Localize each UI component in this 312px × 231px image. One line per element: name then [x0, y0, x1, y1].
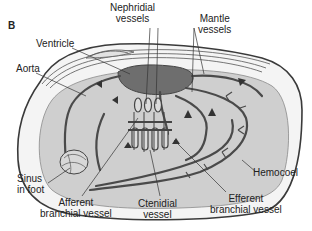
label-ctenidial-vessel: Ctenidial vessel	[138, 198, 177, 220]
label-nephridial-vessels: Nephridial vessels	[110, 2, 155, 24]
panel-label: B	[8, 20, 15, 31]
label-mantle-vessels: Mantle vessels	[198, 13, 231, 35]
label-aorta: Aorta	[16, 63, 40, 74]
sinus-in-foot	[60, 150, 88, 174]
label-efferent-branchial-vessel: Efferent branchial vessel	[210, 193, 282, 215]
label-sinus-in-foot: Sinus in foot	[17, 173, 44, 195]
label-afferent-branchial-vessel: Afferent branchial vessel	[40, 197, 112, 219]
label-ventricle: Ventricle	[36, 38, 74, 49]
label-hemocoel: Hemocoel	[253, 167, 298, 178]
